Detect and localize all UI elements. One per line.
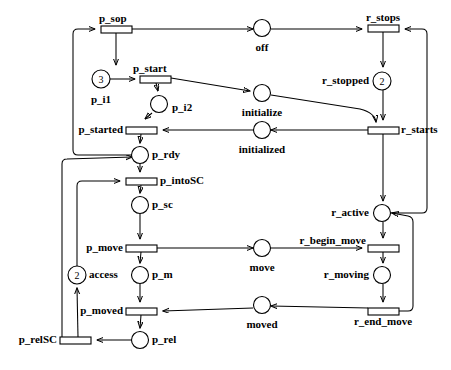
arc-initialize-to-r-starts [271, 95, 376, 122]
label-initialized: initialized [239, 144, 285, 155]
place-r_active[interactable] [374, 205, 391, 222]
label-r_stops: r_stops [366, 12, 400, 23]
arc-r-end-move-to-r-active [392, 213, 413, 311]
label-moved: moved [246, 319, 277, 330]
arc-p-start-to-p-i2 [156, 83, 158, 91]
arc-r-end-move-to-moved [271, 306, 368, 308]
label-p_rdy: p_rdy [152, 149, 180, 160]
transition-r_end_move[interactable] [368, 308, 399, 315]
transition-r_stops[interactable] [368, 25, 399, 32]
label-r_begin_move: r_begin_move [299, 235, 366, 246]
token-count-p_i1: 3 [99, 74, 104, 85]
arc-p-start-to-initialize [171, 78, 250, 91]
place-r_moving[interactable] [374, 267, 391, 284]
arc-r-active-to-r-stops [391, 29, 427, 213]
transition-p_intoSC[interactable] [126, 178, 157, 185]
token-count-access: 2 [75, 270, 80, 281]
label-p_sc: p_sc [152, 199, 173, 210]
label-r_end_move: r_end_move [354, 316, 412, 327]
place-move[interactable] [254, 240, 271, 257]
label-move: move [249, 262, 274, 273]
transition-p_move[interactable] [126, 245, 157, 252]
label-p_rel: p_rel [152, 334, 176, 345]
transition-p_sop[interactable] [101, 26, 132, 33]
arc-p-moved-to-p-rel [140, 315, 141, 328]
place-moved[interactable] [254, 297, 271, 314]
arc-p-i2-to-p-started [145, 113, 152, 119]
place-off[interactable] [254, 20, 271, 37]
place-p_rel[interactable] [132, 332, 149, 349]
label-p_m: p_m [152, 269, 173, 280]
place-initialized[interactable] [254, 122, 271, 139]
arc-p-intoSC-to-p-sc [140, 185, 141, 193]
arc-moved-to-p-moved [163, 308, 253, 311]
label-r_stopped: r_stopped [322, 75, 369, 86]
place-p_m[interactable] [132, 267, 149, 284]
token-count-r_stopped: 2 [380, 76, 385, 87]
transition-layer [60, 25, 399, 344]
arc-p-started-to-p-rdy [140, 134, 141, 143]
arc-p-rdy-to-p-sop [73, 29, 131, 155]
arc-layer [62, 29, 427, 340]
label-p_sop: p_sop [99, 13, 127, 24]
petri-net-diagram: 3 2 2 p_i1 p_i2 off initialize initializ… [0, 0, 451, 370]
arc-p-move-to-p-m [140, 252, 141, 263]
label-p_relSC: p_relSC [19, 334, 57, 345]
label-initialize: initialize [242, 107, 282, 118]
label-p_moved: p_moved [80, 305, 123, 316]
place-initialize[interactable] [254, 85, 271, 102]
label-p_start: p_start [133, 63, 167, 74]
label-p_move: p_move [86, 242, 123, 253]
arc-p-relSC-to-access [77, 288, 78, 337]
label-r_moving: r_moving [324, 269, 369, 280]
place-p_sc[interactable] [132, 197, 149, 214]
place-layer [68, 20, 391, 349]
place-p_rdy[interactable] [132, 147, 149, 164]
transition-r_starts[interactable] [368, 127, 399, 134]
label-access: access [89, 269, 118, 280]
label-p_started: p_started [78, 124, 123, 135]
transition-p_moved[interactable] [126, 308, 157, 315]
label-p_i2: p_i2 [172, 102, 192, 113]
label-r_starts: r_starts [401, 124, 438, 135]
label-r_active: r_active [331, 207, 369, 218]
arc-access-to-p-intoSC [77, 181, 120, 266]
label-off: off [256, 42, 269, 53]
transition-p_relSC[interactable] [60, 337, 91, 344]
place-p_i2[interactable] [151, 96, 168, 113]
label-p_intoSC: p_intoSC [160, 175, 204, 186]
transition-p_start[interactable] [140, 76, 171, 83]
transition-p_started[interactable] [126, 127, 157, 134]
label-p_i1: p_i1 [91, 94, 111, 105]
transition-r_begin_move[interactable] [368, 245, 399, 252]
